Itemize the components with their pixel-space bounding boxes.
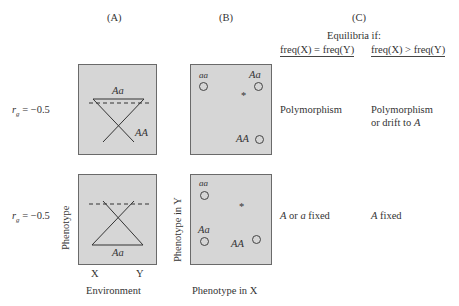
genotype-label-Aa: Aa [112, 85, 124, 96]
row1-panel-b-plot: aa Aa * AA [190, 64, 272, 155]
text: or [286, 210, 300, 221]
row1-equal-outcome: Polymorphism [280, 104, 342, 115]
point-label-aa: aa [199, 178, 208, 188]
row2-greater-outcome: A fixed [371, 210, 402, 221]
row1-rg-label: rg = −0.5 [12, 104, 50, 118]
reaction-norm-lines [79, 65, 158, 156]
panel-a-label: (A) [107, 12, 122, 23]
row2-rg-label: rg = −0.5 [12, 210, 50, 224]
genotype-label-AA: AA [135, 127, 148, 138]
equilibrium-star: * [241, 90, 246, 101]
axis-label-phenotype-in-y: Phenotype in Y [172, 197, 183, 262]
rg-value: = −0.5 [20, 104, 50, 115]
rg-value: = −0.5 [20, 210, 50, 221]
point-aa [200, 191, 209, 200]
text: fixed [377, 210, 401, 221]
row2-panel-b-plot: aa * Aa AA [190, 174, 272, 265]
point-label-Aa: Aa [249, 69, 261, 80]
text: or drift to [371, 117, 414, 128]
panel-c-col-equal: freq(X) = freq(Y) [280, 44, 354, 57]
panel-b-label: (B) [219, 12, 233, 23]
point-label-AA: AA [236, 133, 249, 144]
x-tick-Y: Y [136, 268, 144, 279]
point-label-AA: AA [231, 238, 244, 249]
row1-panel-a-plot: Aa AA [78, 64, 157, 155]
panel-c-title: Equilibria if: [327, 30, 381, 41]
axis-label-phenotype-in-x: Phenotype in X [192, 285, 257, 296]
row2-equal-outcome: A or a fixed [280, 210, 330, 221]
point-label-aa: aa [199, 70, 208, 80]
row2-panel-a-plot: Aa [78, 174, 157, 265]
allele-A: A [414, 117, 420, 128]
panel-c-label: (C) [352, 12, 366, 23]
point-aa [199, 82, 208, 91]
point-AA [255, 135, 264, 144]
point-AA [252, 235, 261, 244]
x-tick-X: X [91, 268, 99, 279]
genotype-label-Aa: Aa [112, 247, 124, 258]
axis-label-phenotype: Phenotype [60, 206, 71, 250]
panel-c-col-greater: freq(X) > freq(Y) [371, 44, 445, 57]
equilibrium-star: * [239, 201, 244, 212]
text: fixed [306, 210, 330, 221]
point-Aa [200, 237, 209, 246]
point-Aa [254, 82, 263, 91]
row1-greater-outcome-line1: Polymorphism [371, 104, 433, 115]
axis-label-environment: Environment [86, 285, 141, 296]
point-label-Aa: Aa [198, 224, 210, 235]
row1-greater-outcome-line2: or drift to A [371, 117, 420, 128]
